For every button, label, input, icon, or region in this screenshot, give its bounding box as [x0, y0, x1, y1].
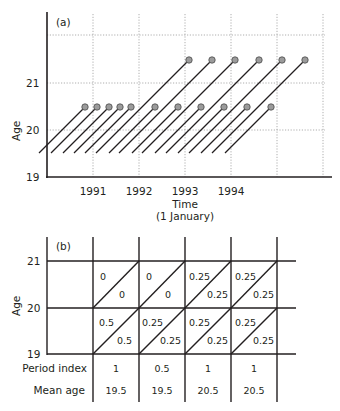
event-dot-icon: [302, 57, 308, 63]
panel-a-label: (a): [56, 16, 71, 28]
cell-upper: 0.25: [189, 271, 210, 282]
event-dot-icon: [256, 57, 262, 63]
panel-a-xlabel-sub: (1 January): [156, 210, 214, 222]
event-dot-icon: [152, 104, 158, 110]
panel-a-xtick-1994: 1994: [218, 185, 245, 197]
panel-a-ytick-21: 21: [26, 77, 39, 89]
mean-age-value: 19.5: [105, 385, 126, 396]
panel-a-ytick-19: 19: [26, 171, 39, 183]
cell-upper: 0: [146, 271, 152, 282]
period-index-value: 0.5: [154, 363, 169, 374]
panel-b: (b) 21 20 19 Age 0 0 0 0 0.25 0.25 0.25 …: [10, 237, 296, 402]
event-dot-icon: [232, 57, 238, 63]
cell-lower: 0.25: [207, 335, 228, 346]
cell-upper: 0: [100, 271, 106, 282]
cell-lower: 0.25: [207, 289, 228, 300]
period-index-value: 1: [251, 363, 257, 374]
cell-lower: 0: [165, 289, 171, 300]
event-dot-icon: [268, 104, 274, 110]
event-dot-icon: [106, 104, 112, 110]
event-dot-icon: [186, 57, 192, 63]
panel-a-xtick-1993: 1993: [172, 185, 199, 197]
cell-lower: 0.25: [160, 335, 181, 346]
event-dot-icon: [82, 104, 88, 110]
panel-a-ytick-20: 20: [26, 124, 39, 136]
cell-upper: 0.25: [142, 317, 163, 328]
cell-upper: 0.25: [235, 271, 256, 282]
period-index-label: Period index: [22, 362, 87, 374]
event-dot-icon: [117, 104, 123, 110]
lexis-diagram-figure: (a) 21 20 19 Age 1991 1992 1993 1994 Tim…: [0, 0, 340, 411]
mean-age-label: Mean age: [33, 384, 85, 396]
panel-a-xlabel: Time: [171, 198, 198, 210]
cell-lower: 0.25: [253, 335, 274, 346]
panel-a-ylabel: Age: [10, 121, 22, 141]
event-dot-icon: [209, 57, 215, 63]
event-dot-icon: [175, 104, 181, 110]
panel-b-ylabel: Age: [10, 296, 22, 316]
panel-b-label: (b): [56, 240, 71, 252]
panel-a-xtick-1991: 1991: [80, 185, 107, 197]
panel-a-grid: [47, 14, 325, 177]
lifelines-short: [39, 107, 271, 153]
mean-age-value: 20.5: [197, 385, 218, 396]
cell-upper: 0.25: [189, 317, 210, 328]
mean-age-value: 20.5: [243, 385, 264, 396]
event-dot-icon: [279, 57, 285, 63]
event-dots: [82, 57, 308, 110]
panel-b-ytick-21: 21: [27, 255, 40, 267]
period-index-value: 1: [205, 363, 211, 374]
cell-upper: 0.5: [99, 317, 114, 328]
cell-lower: 0.5: [117, 335, 132, 346]
event-dot-icon: [128, 104, 134, 110]
event-dot-icon: [244, 104, 250, 110]
cell-lower: 0: [119, 289, 125, 300]
event-dot-icon: [94, 104, 100, 110]
panel-a: (a) 21 20 19 Age 1991 1992 1993 1994 Tim…: [10, 12, 332, 222]
panel-b-ytick-20: 20: [27, 302, 40, 314]
period-index-value: 1: [113, 363, 119, 374]
event-dot-icon: [221, 104, 227, 110]
panel-b-ytick-19: 19: [27, 348, 40, 360]
panel-a-xtick-1992: 1992: [126, 185, 153, 197]
event-dot-icon: [198, 104, 204, 110]
mean-age-value: 19.5: [151, 385, 172, 396]
cell-lower: 0.25: [253, 289, 274, 300]
cell-upper: 0.25: [235, 317, 256, 328]
